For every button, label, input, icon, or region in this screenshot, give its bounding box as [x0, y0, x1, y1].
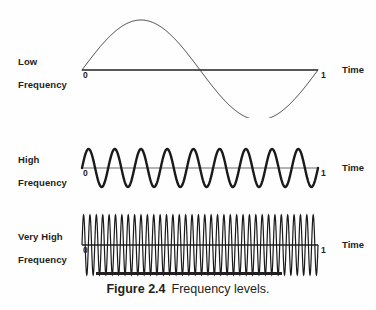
figure-caption-label: Figure 2.4 [106, 282, 165, 296]
axis-name-time: Time [342, 240, 364, 250]
waveform-curve-very-high-frequency [82, 215, 318, 275]
caption-divider-rule [96, 272, 282, 275]
figure-caption: Figure 2.4Frequency levels. [0, 281, 376, 297]
plot-area-very-high-frequency [0, 0, 376, 280]
axis-tick-end: 1 [321, 246, 326, 255]
figure-frequency-levels: Low Frequency 0 1 Time High Frequency 0 … [0, 0, 376, 310]
waveform-svg-very-high-frequency [0, 0, 376, 280]
axis-tick-start: 0 [83, 246, 88, 255]
figure-caption-title: Frequency levels. [172, 282, 270, 296]
waveform-panel-very-high-frequency: Very High Frequency 0 1 Time [0, 0, 376, 280]
